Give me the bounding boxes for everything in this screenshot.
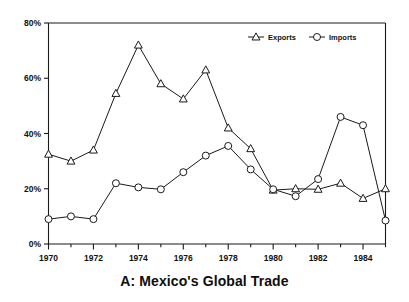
svg-text:60%: 60% xyxy=(24,73,41,83)
svg-text:Exports: Exports xyxy=(268,33,296,42)
chart-series xyxy=(45,41,390,224)
chart-figure: 0%20%40%60%80% 1970197219741976197819801… xyxy=(0,0,409,302)
y-axis-tick-labels: 0%20%40%60%80% xyxy=(24,18,41,249)
svg-text:Imports: Imports xyxy=(329,33,357,42)
y-axis-ticks xyxy=(44,23,49,244)
chart-legend: ExportsImports xyxy=(248,33,357,42)
svg-text:0%: 0% xyxy=(29,239,42,249)
svg-text:1970: 1970 xyxy=(39,253,58,263)
svg-text:40%: 40% xyxy=(24,129,41,139)
svg-text:1974: 1974 xyxy=(129,253,148,263)
svg-text:80%: 80% xyxy=(24,18,41,28)
svg-text:1982: 1982 xyxy=(309,253,328,263)
svg-text:1980: 1980 xyxy=(264,253,283,263)
svg-text:1984: 1984 xyxy=(354,253,373,263)
x-axis-ticks xyxy=(49,244,386,250)
svg-text:20%: 20% xyxy=(24,184,41,194)
x-axis-tick-labels: 19701972197419761978198019821984 xyxy=(39,253,373,263)
chart-title: A: Mexico's Global Trade xyxy=(0,273,409,289)
svg-text:1976: 1976 xyxy=(174,253,193,263)
svg-text:1972: 1972 xyxy=(84,253,103,263)
line-chart-plot: 0%20%40%60%80% 1970197219741976197819801… xyxy=(0,0,409,302)
svg-text:1978: 1978 xyxy=(219,253,238,263)
